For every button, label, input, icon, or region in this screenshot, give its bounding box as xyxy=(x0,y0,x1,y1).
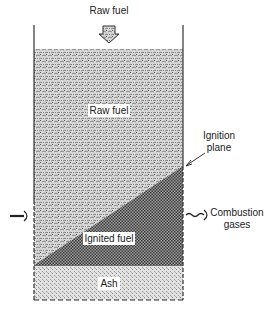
top-feed-label: Raw fuel xyxy=(90,5,129,16)
air-inlet-arrow-icon xyxy=(10,211,27,221)
ignition-plane-label-line1: Ignition xyxy=(203,130,235,141)
raw-fuel-feed-arrow-icon xyxy=(99,26,119,43)
combustion-gas-arrow-icon xyxy=(186,210,207,220)
combustion-gases-label-line1: Combustion xyxy=(210,207,263,218)
ignition-plane-label-line2: plane xyxy=(207,142,232,153)
fuel-bed-diagram: Raw fuel Raw fuel Ignited fuel Ash Ignit… xyxy=(0,0,270,309)
combustion-gases-label-line2: gases xyxy=(224,219,251,230)
raw-fuel-zone-label: Raw fuel xyxy=(90,105,129,116)
ignited-fuel-zone-label: Ignited fuel xyxy=(85,233,134,244)
ignition-plane-pointer-icon xyxy=(186,153,205,166)
ash-zone-label: Ash xyxy=(100,278,117,289)
